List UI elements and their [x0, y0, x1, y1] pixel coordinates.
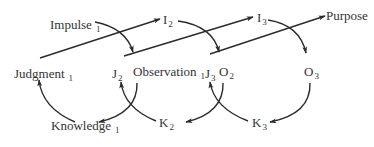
node-o-3-text: O [304, 64, 313, 79]
node-o-3-sub: 3 [314, 71, 319, 81]
node-j-3-text: J [205, 66, 210, 81]
node-k-2: K2 [159, 116, 174, 131]
node-i-3-sub: 3 [262, 17, 267, 27]
node-impulse-1-text: Impulse [50, 17, 92, 32]
node-k-3: K3 [252, 116, 267, 131]
node-judgment-1-sub: 1 [69, 73, 74, 83]
node-k-2-text: K [159, 115, 168, 130]
node-impulse-1: Impulse1 [50, 18, 100, 33]
node-j-3: J3 [205, 67, 216, 82]
node-j-3-sub: 3 [211, 73, 216, 83]
node-i-2-text: I [163, 12, 167, 27]
edge-k3-to-j3 [210, 82, 248, 121]
node-judgment-1-text: Judgment [14, 66, 65, 81]
node-i-2: I2 [163, 13, 173, 28]
node-k-3-text: K [252, 115, 261, 130]
edge-impulse1-to-observation1 [95, 22, 133, 52]
node-k-2-sub: 2 [169, 122, 174, 132]
node-knowledge-1: Knowledge1 [51, 119, 119, 134]
node-i-2-sub: 2 [168, 19, 173, 29]
node-knowledge-1-text: Knowledge [51, 118, 111, 133]
edge-knowledge1-to-judgment1 [39, 80, 75, 122]
edge-o2-to-k2 [186, 83, 223, 122]
node-o-3: O3 [304, 65, 319, 80]
edge-k2-to-j2 [121, 82, 156, 121]
edge-o3-to-k3 [270, 83, 310, 122]
node-purpose-text: Purpose [326, 8, 368, 23]
edge-j3-to-purpose [210, 16, 325, 54]
node-j-2-text: J [112, 66, 117, 81]
node-observation-1: Observation1 [133, 65, 205, 80]
node-impulse-1-sub: 1 [96, 24, 101, 34]
node-j-2: J2 [112, 67, 123, 82]
node-o-2: O2 [219, 65, 234, 80]
node-k-3-sub: 3 [262, 122, 267, 132]
node-o-2-sub: 2 [229, 71, 234, 81]
edge-i2-to-o2 [178, 21, 219, 52]
node-judgment-1: Judgment1 [14, 67, 73, 82]
node-i-3-text: I [257, 10, 261, 25]
edge-observation1-to-knowledge1 [99, 83, 137, 122]
node-purpose: Purpose [326, 9, 368, 23]
node-j-2-sub: 2 [118, 73, 123, 83]
node-i-3: I3 [257, 11, 267, 26]
node-knowledge-1-sub: 1 [115, 125, 120, 135]
node-observation-1-text: Observation [133, 64, 197, 79]
node-o-2-text: O [219, 64, 228, 79]
edge-i3-to-o3 [268, 20, 306, 53]
